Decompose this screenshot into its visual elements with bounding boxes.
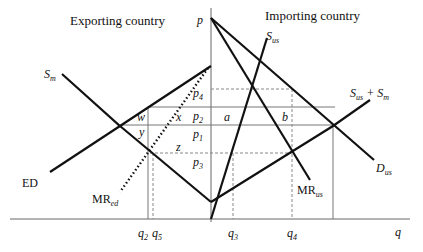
mr-ed-label: MRed xyxy=(92,192,119,208)
mr-us-label: MRus xyxy=(297,183,323,199)
trade-diagram: Exporting country Importing country p q … xyxy=(0,0,423,252)
p1-label: p1 xyxy=(192,127,203,143)
p2-label: p2 xyxy=(192,109,203,125)
mr-us-curve xyxy=(211,18,310,180)
p3-label: p3 xyxy=(192,155,203,171)
area-y: y xyxy=(138,125,145,139)
area-w: w xyxy=(137,110,145,124)
exporting-title: Exporting country xyxy=(70,13,165,28)
s-m-label: Sm xyxy=(44,67,56,83)
q3-label: q3 xyxy=(228,226,238,242)
ed-label: ED xyxy=(22,176,38,190)
q5-label: q5 xyxy=(152,226,162,242)
s-us-label: Sus xyxy=(266,29,279,45)
area-x: x xyxy=(175,110,182,124)
area-a: a xyxy=(224,110,230,124)
diagram-canvas: Exporting country Importing country p q … xyxy=(0,0,423,252)
q-axis-label: q xyxy=(395,225,401,239)
s-sum-label: Sus + Sm xyxy=(350,86,389,102)
importing-title: Importing country xyxy=(265,8,360,23)
p-axis-label: p xyxy=(196,13,203,27)
p4-label: p4 xyxy=(192,86,203,102)
q4-label: q4 xyxy=(287,226,297,242)
area-z: z xyxy=(175,140,181,154)
s-sum-curve xyxy=(211,100,370,202)
d-us-label: Dus xyxy=(375,161,392,177)
area-b: b xyxy=(282,110,288,124)
q2-label: q2 xyxy=(138,226,148,242)
ed-curve xyxy=(50,126,120,172)
